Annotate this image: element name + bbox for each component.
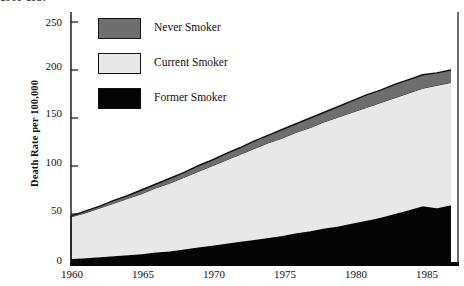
y-tick-label-50: 50 [28,205,62,216]
y-tick-label-250: 250 [28,17,62,28]
x-tick-label-1975: 1975 [262,268,308,280]
legend-label-never-smoker: Never Smoker [154,21,221,33]
x-axis-baseline [70,262,459,266]
y-tick-label-0: 0 [28,255,62,266]
plot-area [0,0,464,286]
legend-label-current-smoker: Current Smoker [154,56,228,68]
y-tick-label-100: 100 [28,157,62,168]
legend-swatch-never-smoker [98,18,141,39]
x-tick-label-1980: 1980 [333,268,379,280]
y-tick-label-150: 150 [28,108,62,119]
x-tick-label-1960: 1960 [49,268,95,280]
x-tick-label-1970: 1970 [191,268,237,280]
stacked-area-chart: 1960-1987 Death Rate per 100,000 250 200… [0,0,464,286]
legend-swatch-former-smoker [98,88,141,109]
legend-swatch-current-smoker [98,53,141,74]
x-tick-label-1965: 1965 [120,268,166,280]
legend-label-former-smoker: Former Smoker [154,91,227,103]
x-tick-label-1985: 1985 [404,268,450,280]
y-tick-label-200: 200 [28,61,62,72]
